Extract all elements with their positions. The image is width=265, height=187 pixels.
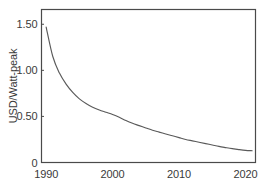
x-axis-tick-label: 2010: [167, 168, 191, 180]
y-axis-title: USD/Watt-peak: [7, 49, 19, 124]
x-axis-tick-label: 1990: [34, 168, 58, 180]
x-axis-tick-label: 2020: [233, 168, 257, 180]
chart-figure: 00.501.001.50 1990200020102020 USD/Watt-…: [0, 0, 265, 187]
y-axis-tick-label: 0.50: [16, 110, 37, 122]
x-axis-tick-label: 2000: [101, 168, 125, 180]
y-axis-tick-label: 1.50: [16, 18, 37, 30]
plot-background: [42, 10, 256, 163]
y-axis-tick-label: 1.00: [16, 64, 37, 76]
chart-canvas: [0, 0, 265, 187]
